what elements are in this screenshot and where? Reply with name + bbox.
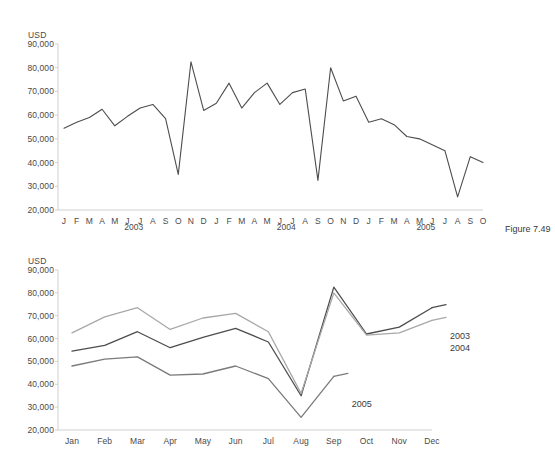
monthly-timeseries-plot <box>0 6 500 228</box>
year-over-year-plot <box>0 238 500 466</box>
figure-caption: Figure 7.49 <box>505 224 551 234</box>
year-over-year-chart: USD 90,00080,00070,00060,00050,00040,000… <box>0 238 500 466</box>
monthly-timeseries-chart: USD 90,00080,00070,00060,00050,00040,000… <box>0 6 500 228</box>
